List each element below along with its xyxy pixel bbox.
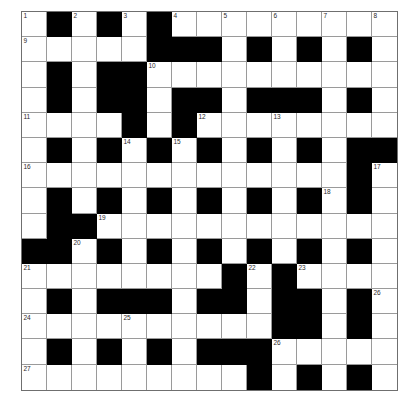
crossword-cell[interactable]: 18 bbox=[322, 188, 347, 213]
crossword-cell[interactable] bbox=[372, 314, 397, 339]
crossword-cell[interactable] bbox=[347, 339, 372, 364]
crossword-cell[interactable] bbox=[222, 365, 247, 390]
crossword-cell[interactable] bbox=[72, 62, 97, 87]
crossword-cell[interactable] bbox=[272, 239, 297, 264]
crossword-cell[interactable] bbox=[247, 214, 272, 239]
crossword-cell[interactable]: 20 bbox=[72, 239, 97, 264]
crossword-cell[interactable] bbox=[272, 62, 297, 87]
crossword-cell[interactable] bbox=[222, 88, 247, 113]
crossword-cell[interactable] bbox=[297, 339, 322, 364]
crossword-cell[interactable]: 3 bbox=[122, 12, 147, 37]
crossword-cell[interactable]: 23 bbox=[297, 264, 322, 289]
crossword-cell[interactable] bbox=[72, 88, 97, 113]
crossword-cell[interactable]: 14 bbox=[122, 138, 147, 163]
crossword-cell[interactable]: 12 bbox=[197, 113, 222, 138]
crossword-cell[interactable] bbox=[97, 113, 122, 138]
crossword-cell[interactable] bbox=[22, 138, 47, 163]
crossword-cell[interactable] bbox=[372, 188, 397, 213]
crossword-cell[interactable] bbox=[372, 239, 397, 264]
crossword-cell[interactable]: 5 bbox=[222, 12, 247, 37]
crossword-cell[interactable] bbox=[22, 88, 47, 113]
crossword-cell[interactable]: 26 bbox=[272, 339, 297, 364]
crossword-cell[interactable] bbox=[347, 113, 372, 138]
crossword-cell[interactable] bbox=[122, 188, 147, 213]
crossword-cell[interactable] bbox=[72, 339, 97, 364]
crossword-cell[interactable] bbox=[47, 113, 72, 138]
crossword-cell[interactable] bbox=[172, 188, 197, 213]
crossword-cell[interactable] bbox=[47, 163, 72, 188]
crossword-cell[interactable] bbox=[47, 314, 72, 339]
crossword-grid[interactable]: 1234567891011121314151617181920212223262… bbox=[21, 11, 398, 391]
crossword-cell[interactable]: 15 bbox=[172, 138, 197, 163]
crossword-cell[interactable] bbox=[72, 264, 97, 289]
crossword-cell[interactable]: 4 bbox=[172, 12, 197, 37]
crossword-cell[interactable] bbox=[322, 214, 347, 239]
crossword-cell[interactable] bbox=[47, 37, 72, 62]
crossword-cell[interactable] bbox=[47, 365, 72, 390]
crossword-cell[interactable] bbox=[147, 264, 172, 289]
crossword-cell[interactable] bbox=[172, 214, 197, 239]
crossword-cell[interactable]: 9 bbox=[22, 37, 47, 62]
crossword-cell[interactable] bbox=[72, 163, 97, 188]
crossword-cell[interactable] bbox=[222, 214, 247, 239]
crossword-cell[interactable] bbox=[272, 163, 297, 188]
crossword-cell[interactable] bbox=[122, 214, 147, 239]
crossword-cell[interactable] bbox=[122, 37, 147, 62]
crossword-cell[interactable] bbox=[372, 264, 397, 289]
crossword-cell[interactable] bbox=[372, 214, 397, 239]
crossword-cell[interactable] bbox=[97, 264, 122, 289]
crossword-cell[interactable] bbox=[97, 365, 122, 390]
crossword-cell[interactable]: 26 bbox=[372, 289, 397, 314]
crossword-cell[interactable] bbox=[322, 239, 347, 264]
crossword-cell[interactable] bbox=[322, 365, 347, 390]
crossword-cell[interactable] bbox=[147, 113, 172, 138]
crossword-cell[interactable] bbox=[372, 365, 397, 390]
crossword-cell[interactable] bbox=[47, 264, 72, 289]
crossword-cell[interactable] bbox=[122, 365, 147, 390]
crossword-cell[interactable] bbox=[222, 314, 247, 339]
crossword-cell[interactable] bbox=[122, 163, 147, 188]
crossword-cell[interactable] bbox=[247, 62, 272, 87]
crossword-cell[interactable] bbox=[272, 365, 297, 390]
crossword-cell[interactable] bbox=[172, 365, 197, 390]
crossword-cell[interactable]: 25 bbox=[122, 314, 147, 339]
crossword-cell[interactable] bbox=[372, 37, 397, 62]
crossword-cell[interactable] bbox=[97, 163, 122, 188]
crossword-cell[interactable] bbox=[122, 264, 147, 289]
crossword-cell[interactable] bbox=[197, 163, 222, 188]
crossword-cell[interactable] bbox=[147, 365, 172, 390]
crossword-cell[interactable] bbox=[197, 365, 222, 390]
crossword-cell[interactable] bbox=[247, 113, 272, 138]
crossword-cell[interactable] bbox=[322, 62, 347, 87]
crossword-cell[interactable] bbox=[222, 188, 247, 213]
crossword-cell[interactable]: 21 bbox=[22, 264, 47, 289]
crossword-cell[interactable] bbox=[297, 113, 322, 138]
crossword-cell[interactable] bbox=[197, 314, 222, 339]
crossword-cell[interactable]: 13 bbox=[272, 113, 297, 138]
crossword-cell[interactable] bbox=[97, 314, 122, 339]
crossword-cell[interactable] bbox=[122, 339, 147, 364]
crossword-cell[interactable]: 7 bbox=[322, 12, 347, 37]
crossword-cell[interactable] bbox=[122, 239, 147, 264]
crossword-cell[interactable] bbox=[197, 12, 222, 37]
crossword-cell[interactable] bbox=[322, 138, 347, 163]
crossword-cell[interactable] bbox=[72, 113, 97, 138]
crossword-cell[interactable] bbox=[197, 264, 222, 289]
crossword-cell[interactable] bbox=[22, 289, 47, 314]
crossword-cell[interactable] bbox=[347, 12, 372, 37]
crossword-cell[interactable]: 24 bbox=[22, 314, 47, 339]
crossword-cell[interactable] bbox=[322, 314, 347, 339]
crossword-cell[interactable] bbox=[347, 62, 372, 87]
crossword-cell[interactable] bbox=[322, 88, 347, 113]
crossword-cell[interactable] bbox=[147, 314, 172, 339]
crossword-cell[interactable] bbox=[247, 314, 272, 339]
crossword-cell[interactable]: 2 bbox=[72, 12, 97, 37]
crossword-cell[interactable] bbox=[322, 339, 347, 364]
crossword-cell[interactable] bbox=[72, 365, 97, 390]
crossword-cell[interactable] bbox=[222, 138, 247, 163]
crossword-cell[interactable]: 22 bbox=[247, 264, 272, 289]
crossword-cell[interactable] bbox=[22, 62, 47, 87]
crossword-cell[interactable] bbox=[72, 314, 97, 339]
crossword-cell[interactable] bbox=[222, 239, 247, 264]
crossword-cell[interactable] bbox=[197, 214, 222, 239]
